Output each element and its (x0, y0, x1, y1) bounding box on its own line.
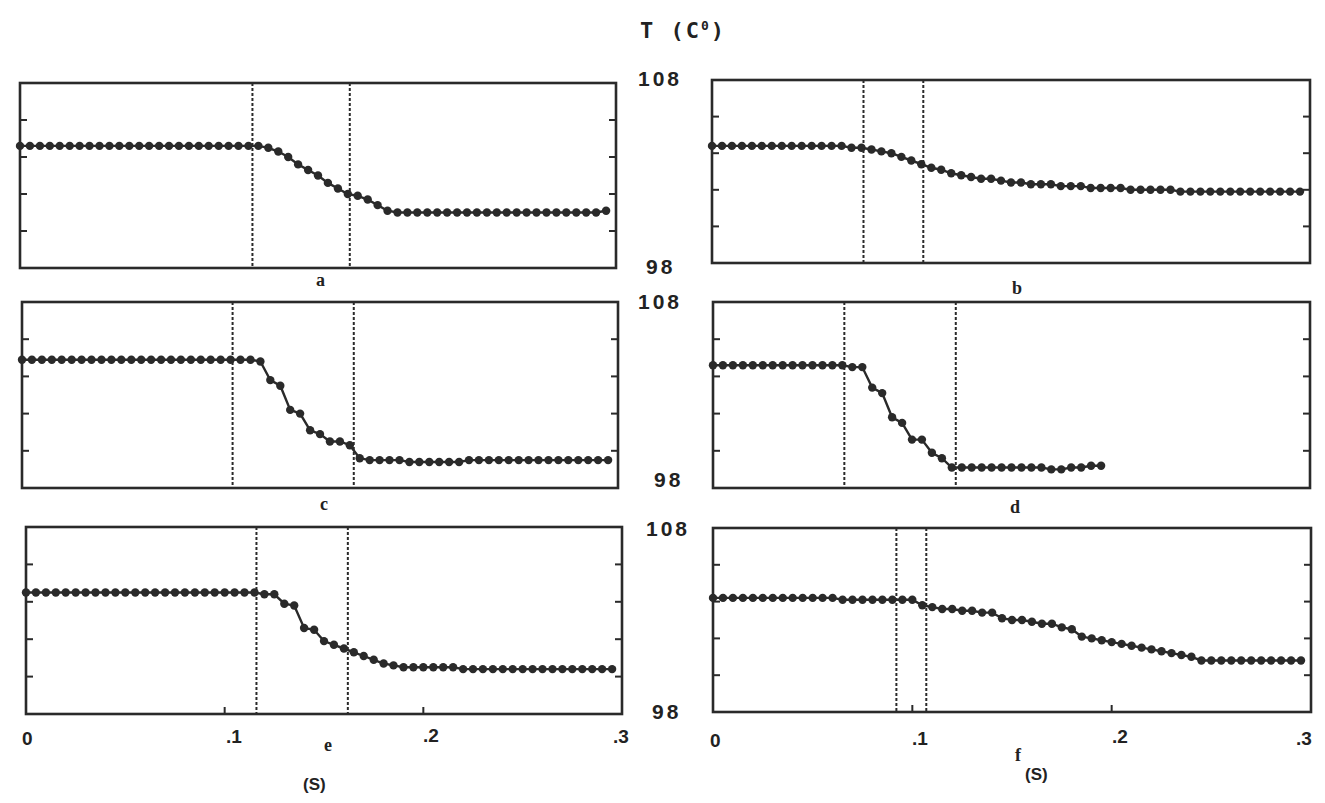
data-point-marker (175, 142, 183, 150)
data-point-marker (350, 648, 358, 656)
y-max-label-row1: 108 (638, 67, 682, 91)
data-point-marker (1097, 184, 1105, 192)
data-point-marker (1217, 656, 1225, 664)
data-point-marker (1246, 187, 1254, 195)
plot-frame (713, 302, 1310, 488)
data-point-marker (1077, 182, 1085, 190)
data-point-marker (877, 147, 885, 155)
data-point-marker (858, 596, 866, 604)
data-point-marker (221, 588, 229, 596)
data-point-marker (330, 641, 338, 649)
data-point-marker (938, 605, 946, 613)
data-point-marker (68, 356, 76, 364)
temperature-series-line (20, 146, 606, 213)
data-point-marker (1078, 632, 1086, 640)
panel-label-c: c (320, 494, 328, 515)
data-point-marker (36, 142, 44, 150)
data-point-marker (1267, 656, 1275, 664)
data-point-marker (1057, 182, 1065, 190)
data-point-marker (274, 147, 282, 155)
data-point-marker (157, 356, 165, 364)
data-point-marker (1196, 187, 1204, 195)
data-point-marker (977, 175, 985, 183)
data-point-marker (266, 376, 274, 384)
data-point-marker (455, 458, 463, 466)
data-point-marker (1117, 640, 1125, 648)
data-point-marker (1147, 645, 1155, 653)
data-point-marker (217, 356, 225, 364)
data-point-marker (127, 356, 135, 364)
data-point-marker (101, 588, 109, 596)
data-point-marker (230, 588, 238, 596)
data-point-marker (604, 456, 612, 464)
data-point-marker (608, 665, 616, 673)
data-point-marker (270, 590, 278, 598)
data-point-marker (868, 596, 876, 604)
data-point-marker (503, 208, 511, 216)
data-point-marker (72, 588, 80, 596)
data-point-marker (131, 588, 139, 596)
x-tick-right-3: .3 (1296, 728, 1312, 750)
data-point-marker (828, 594, 836, 602)
y-min-label-row2: 98 (654, 468, 683, 492)
plot-frame (712, 80, 1310, 263)
data-point-marker (1157, 647, 1165, 655)
data-point-marker (759, 594, 767, 602)
data-point-marker (578, 665, 586, 673)
data-point-marker (513, 208, 521, 216)
data-point-marker (201, 588, 209, 596)
data-point-marker (778, 142, 786, 150)
data-point-marker (443, 208, 451, 216)
data-point-marker (147, 356, 155, 364)
data-point-marker (1028, 618, 1036, 626)
data-point-marker (256, 357, 264, 365)
data-point-marker (1136, 186, 1144, 194)
data-point-marker (562, 208, 570, 216)
data-point-marker (320, 637, 328, 645)
data-point-marker (425, 458, 433, 466)
data-point-marker (847, 144, 855, 152)
data-point-marker (290, 601, 298, 609)
data-point-marker (385, 456, 393, 464)
data-point-marker (224, 142, 232, 150)
data-point-marker (483, 208, 491, 216)
data-point-marker (336, 437, 344, 445)
data-point-marker (300, 624, 308, 632)
x-unit-right: (S) (1025, 765, 1048, 785)
data-point-marker (908, 435, 916, 443)
data-point-marker (1077, 463, 1085, 471)
data-point-marker (1027, 463, 1035, 471)
data-point-marker (908, 596, 916, 604)
data-point-marker (141, 588, 149, 596)
data-point-marker (52, 588, 60, 596)
data-point-marker (798, 142, 806, 150)
data-point-marker (284, 153, 292, 161)
data-point-marker (1276, 187, 1284, 195)
data-point-marker (505, 456, 513, 464)
data-point-marker (66, 142, 74, 150)
data-point-marker (788, 361, 796, 369)
data-point-marker (958, 463, 966, 471)
x-tick-left-1: .1 (226, 726, 242, 748)
data-point-marker (91, 588, 99, 596)
data-point-marker (582, 208, 590, 216)
data-point-marker (296, 409, 304, 417)
data-point-marker (399, 663, 407, 671)
data-point-marker (808, 361, 816, 369)
data-point-marker (978, 463, 986, 471)
data-point-marker (244, 142, 252, 150)
data-point-marker (799, 594, 807, 602)
data-point-marker (18, 356, 26, 364)
data-point-marker (948, 463, 956, 471)
data-point-marker (32, 588, 40, 596)
data-point-marker (997, 176, 1005, 184)
data-point-marker (987, 463, 995, 471)
data-point-marker (340, 644, 348, 652)
data-point-marker (495, 456, 503, 464)
data-point-marker (1247, 656, 1255, 664)
data-point-marker (1067, 182, 1075, 190)
data-point-marker (568, 665, 576, 673)
data-point-marker (868, 383, 876, 391)
data-point-marker (1037, 463, 1045, 471)
data-point-marker (1108, 638, 1116, 646)
